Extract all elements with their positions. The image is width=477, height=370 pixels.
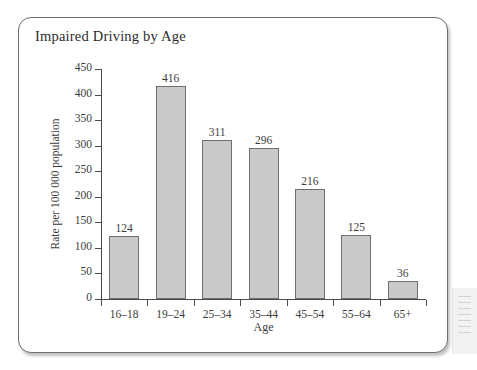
y-axis-tick-label: 250	[75, 163, 92, 175]
bar-value-label: 311	[209, 126, 226, 138]
y-axis-tick-label: 450	[75, 61, 92, 73]
bar-value-label: 216	[301, 175, 318, 187]
page-edge-fragment	[452, 288, 477, 354]
x-axis-tick	[426, 300, 427, 306]
y-axis-label: Rate per 100 000 population	[46, 70, 64, 298]
chart-title: Impaired Driving by Age	[35, 28, 186, 45]
x-axis-tick	[287, 300, 288, 306]
bar: 124	[109, 236, 139, 299]
bar-value-label: 416	[162, 72, 179, 84]
y-axis-tick	[95, 95, 101, 96]
y-axis-label-text: Rate per 100 000 population	[49, 119, 61, 250]
y-axis-tick	[95, 273, 101, 274]
chart-card: Impaired Driving by Age Rate per 100 000…	[18, 17, 448, 353]
y-axis-tick-label: 300	[75, 138, 92, 150]
y-axis-tick	[95, 120, 101, 121]
x-axis-line	[101, 299, 426, 300]
y-axis-tick	[95, 171, 101, 172]
y-axis-tick-label: 0	[86, 291, 92, 303]
bar: 216	[295, 189, 325, 299]
bar: 416	[156, 86, 186, 299]
screenshot-page: Impaired Driving by Age Rate per 100 000…	[0, 0, 477, 370]
bar: 311	[202, 140, 232, 299]
x-axis-category-label: 45–54	[296, 308, 325, 320]
bar: 296	[249, 148, 279, 299]
x-axis-tick	[380, 300, 381, 306]
x-axis-label: Age	[101, 320, 426, 335]
y-axis-tick	[95, 197, 101, 198]
y-axis-tick-label: 400	[75, 87, 92, 99]
x-axis-tick	[333, 300, 334, 306]
bar-value-label: 125	[348, 221, 365, 233]
x-axis-category-label: 65+	[394, 308, 412, 320]
x-axis-category-label: 35–44	[249, 308, 278, 320]
x-axis-tick	[240, 300, 241, 306]
y-axis-tick-label: 150	[75, 214, 92, 226]
y-axis-tick	[95, 69, 101, 70]
bar: 36	[388, 281, 418, 299]
x-axis-tick	[147, 300, 148, 306]
bar: 125	[341, 235, 371, 299]
x-axis-tick	[194, 300, 195, 306]
y-axis-tick-label: 200	[75, 189, 92, 201]
y-axis-line	[101, 69, 102, 300]
x-axis-category-label: 25–34	[203, 308, 232, 320]
y-axis-tick-label: 50	[81, 265, 93, 277]
bar-value-label: 296	[255, 134, 272, 146]
bar-value-label: 124	[116, 222, 133, 234]
y-axis-tick	[95, 222, 101, 223]
y-axis-tick	[95, 248, 101, 249]
y-axis-tick-label: 350	[75, 112, 92, 124]
plot-area: 05010015020025030035040045012416–1841619…	[101, 69, 426, 299]
x-axis-category-label: 19–24	[156, 308, 185, 320]
x-axis-category-label: 16–18	[110, 308, 139, 320]
y-axis-tick-label: 100	[75, 240, 92, 252]
x-axis-category-label: 55–64	[342, 308, 371, 320]
x-axis-tick	[101, 300, 102, 306]
y-axis-tick	[95, 146, 101, 147]
bar-value-label: 36	[397, 267, 409, 279]
